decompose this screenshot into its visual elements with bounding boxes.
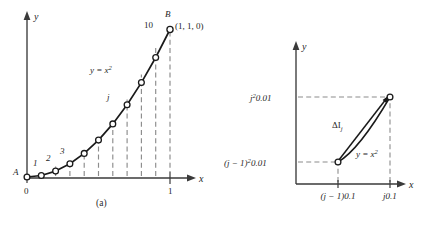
- panel-b-plot: y x j20.01 (j − 1: [220, 0, 438, 227]
- figure-root: y x 0 1: [0, 0, 438, 227]
- drop-lines-a: [56, 29, 170, 176]
- point-coords-b: (1, 1, 0): [175, 21, 204, 31]
- y-tick-label-upper-b: j20.01: [249, 92, 272, 103]
- axis-label-y-a: y: [33, 11, 39, 22]
- segment-label-3: 3: [59, 146, 65, 156]
- curve-equation-a: y = x2: [89, 64, 113, 75]
- segment-label-2: 2: [46, 153, 51, 163]
- point-label-b-end: B: [165, 9, 171, 19]
- panel-a-plot: y x 0 1: [0, 0, 220, 227]
- x-tick-label-right-b: j0.1: [382, 191, 397, 201]
- axis-label-y-b: y: [301, 41, 307, 52]
- y-tick-label-lower-b: (j − 1)20.01: [224, 157, 267, 168]
- point-label-a-start: A: [12, 167, 19, 177]
- x-tick-label-1-a: 1: [168, 186, 173, 196]
- x-axis-a: [27, 175, 196, 182]
- panel-a: y x 0 1: [0, 0, 220, 227]
- axis-label-x-a: x: [198, 173, 204, 184]
- x-tick-label-left-b: (j − 1)0.1: [321, 191, 356, 201]
- increment-label-b: ΔIj: [332, 120, 343, 132]
- y-axis-a: [24, 11, 31, 178]
- guide-lines-b: [298, 97, 390, 182]
- curve-equation-b: y = x2: [355, 148, 379, 159]
- segment-label-j: j: [106, 92, 110, 102]
- node-lower-b: [335, 159, 341, 165]
- axis-label-x-b: x: [408, 179, 414, 190]
- node-upper-b: [387, 94, 393, 100]
- x-tick-label-0-a: 0: [24, 186, 29, 196]
- panel-b: y x j20.01 (j − 1: [220, 0, 438, 227]
- segment-label-1: 1: [33, 158, 38, 168]
- segment-label-10: 10: [144, 20, 154, 30]
- caption-a: (a): [96, 198, 107, 208]
